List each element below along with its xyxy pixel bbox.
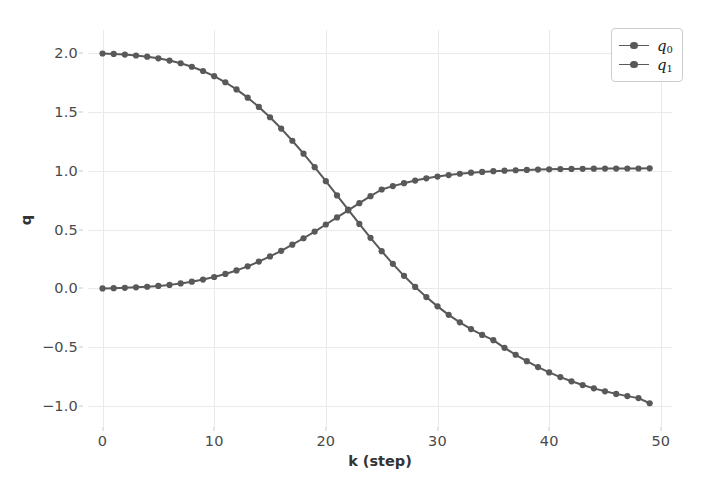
- data-point-marker: [222, 79, 228, 85]
- data-point-marker: [278, 248, 284, 254]
- data-point-marker: [524, 167, 530, 173]
- data-point-marker: [624, 393, 630, 399]
- legend-item-q_0[interactable]: q0: [619, 36, 673, 55]
- data-point-marker: [568, 166, 574, 172]
- y-tick-label: −0.5: [42, 339, 78, 355]
- y-axis-ticks: 2.01.51.00.50.0−0.5−1.0: [0, 30, 78, 427]
- data-point-marker: [412, 177, 418, 183]
- data-point-marker: [602, 388, 608, 394]
- data-point-marker: [345, 207, 351, 213]
- data-point-marker: [300, 235, 306, 241]
- data-point-marker: [490, 337, 496, 343]
- chart-figure: 2.01.51.00.50.0−0.5−1.0 01020304050 k (s…: [0, 0, 711, 492]
- data-point-marker: [111, 51, 117, 57]
- legend-label: q1: [657, 56, 673, 74]
- data-point-marker: [568, 378, 574, 384]
- x-tick-mark: [325, 427, 326, 431]
- y-tick-mark: [79, 170, 83, 171]
- data-point-marker: [647, 400, 653, 406]
- legend-item-q_1[interactable]: q1: [619, 55, 673, 74]
- legend[interactable]: q0q1: [611, 28, 683, 82]
- data-point-marker: [580, 382, 586, 388]
- data-point-marker: [557, 374, 563, 380]
- x-axis-label: k (step): [88, 453, 672, 469]
- data-point-marker: [245, 263, 251, 269]
- data-point-marker: [233, 267, 239, 273]
- legend-line-sample: [619, 40, 649, 52]
- data-point-marker: [457, 319, 463, 325]
- x-tick-mark: [549, 427, 550, 431]
- data-point-marker: [367, 235, 373, 241]
- y-tick-mark: [79, 347, 83, 348]
- x-tick-mark: [660, 427, 661, 431]
- x-tick-label: 50: [651, 433, 670, 449]
- y-tick-label: 1.0: [54, 163, 78, 179]
- legend-line-sample: [619, 59, 649, 71]
- data-point-marker: [133, 284, 139, 290]
- data-point-marker: [211, 274, 217, 280]
- data-point-marker: [401, 180, 407, 186]
- data-point-marker: [111, 285, 117, 291]
- data-point-marker: [233, 86, 239, 92]
- data-point-marker: [166, 57, 172, 63]
- data-point-marker: [468, 326, 474, 332]
- y-tick-mark: [79, 53, 83, 54]
- data-point-marker: [501, 168, 507, 174]
- data-point-marker: [133, 52, 139, 58]
- data-point-marker: [256, 104, 262, 110]
- y-tick-mark: [79, 405, 83, 406]
- data-point-marker: [434, 303, 440, 309]
- data-point-marker: [200, 276, 206, 282]
- data-point-marker: [412, 284, 418, 290]
- y-tick-mark: [79, 229, 83, 230]
- data-point-marker: [334, 192, 340, 198]
- data-point-marker: [602, 166, 608, 172]
- data-point-marker: [323, 221, 329, 227]
- series-q_0: [99, 50, 652, 406]
- data-point-marker: [289, 138, 295, 144]
- data-point-marker: [367, 193, 373, 199]
- data-point-marker: [379, 186, 385, 192]
- data-point-marker: [356, 200, 362, 206]
- y-tick-label: 1.5: [54, 104, 78, 120]
- y-tick-label: −1.0: [42, 398, 78, 414]
- y-tick-mark: [79, 112, 83, 113]
- data-point-marker: [267, 253, 273, 259]
- series-q_1: [99, 165, 652, 291]
- data-point-marker: [211, 73, 217, 79]
- data-point-marker: [457, 171, 463, 177]
- y-axis-label: q: [18, 190, 34, 250]
- data-point-marker: [178, 60, 184, 66]
- data-point-marker: [122, 285, 128, 291]
- data-point-marker: [401, 273, 407, 279]
- data-point-marker: [189, 64, 195, 70]
- data-point-marker: [144, 54, 150, 60]
- data-point-marker: [278, 125, 284, 131]
- data-point-marker: [546, 369, 552, 375]
- data-point-marker: [222, 271, 228, 277]
- data-point-marker: [624, 165, 630, 171]
- data-point-marker: [256, 259, 262, 265]
- data-point-marker: [423, 294, 429, 300]
- data-point-marker: [635, 395, 641, 401]
- data-point-marker: [647, 165, 653, 171]
- data-point-marker: [434, 173, 440, 179]
- data-point-marker: [546, 166, 552, 172]
- data-point-marker: [613, 391, 619, 397]
- data-point-marker: [423, 175, 429, 181]
- data-point-marker: [580, 166, 586, 172]
- y-tick-mark: [79, 288, 83, 289]
- data-point-marker: [513, 352, 519, 358]
- data-point-marker: [300, 151, 306, 157]
- data-point-marker: [535, 166, 541, 172]
- series-line: [103, 168, 650, 288]
- data-point-marker: [479, 332, 485, 338]
- data-point-marker: [446, 312, 452, 318]
- data-point-marker: [312, 228, 318, 234]
- y-tick-label: 2.0: [54, 45, 78, 61]
- data-point-marker: [356, 221, 362, 227]
- x-tick-label: 20: [316, 433, 335, 449]
- data-point-marker: [635, 165, 641, 171]
- data-point-marker: [178, 280, 184, 286]
- data-point-marker: [267, 114, 273, 120]
